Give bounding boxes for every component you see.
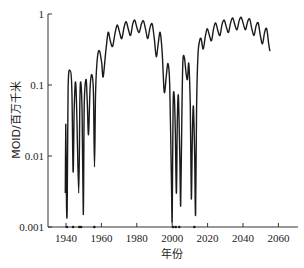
svg-text:MOID/百万千米: MOID/百万千米 [10, 81, 23, 159]
x-tick-label: 2000 [161, 232, 184, 244]
x-axis: 1940196019802000202020402060 年份 [48, 223, 298, 261]
close-approach-marker [72, 226, 75, 229]
x-tick-label: 1980 [126, 232, 149, 244]
plot-area [65, 17, 270, 222]
x-tick-label: 1960 [90, 232, 113, 244]
moid-line [65, 17, 270, 222]
x-tick-label: 1940 [55, 232, 78, 244]
y-tick-label: 1 [39, 8, 45, 20]
y-tick-label: 0.001 [19, 221, 44, 233]
moid-chart: 1940196019802000202020402060 年份 0.0010.0… [0, 0, 304, 268]
y-ticks: 0.0010.010.11 [19, 8, 52, 233]
close-approach-marker [66, 226, 69, 229]
x-tick-label: 2060 [267, 232, 290, 244]
close-approach-marker [80, 226, 83, 229]
x-tick-label: 2020 [197, 232, 220, 244]
close-approach-marker [172, 226, 175, 229]
y-axis: 0.0010.010.11 MOID/百万千米 [10, 8, 52, 233]
close-approach-marker [178, 226, 181, 229]
y-tick-label: 0.01 [25, 150, 44, 162]
y-tick-label: 0.1 [30, 79, 44, 91]
close-approach-marker [193, 226, 196, 229]
y-axis-title: MOID/百万千米 [10, 81, 23, 159]
close-approach-marker [174, 226, 177, 229]
x-tick-label: 2040 [232, 232, 255, 244]
x-axis-title: 年份 [161, 247, 183, 261]
close-approach-marker [93, 226, 96, 229]
